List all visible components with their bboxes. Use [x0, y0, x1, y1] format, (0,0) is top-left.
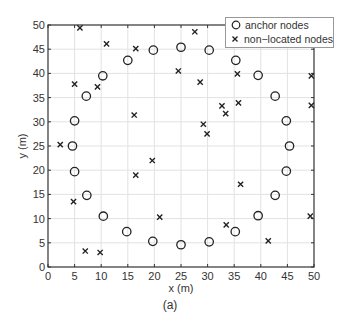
anchor-node-marker [231, 227, 239, 235]
legend-item-non-located-nodes: non−located nodes [226, 32, 333, 46]
non-located-node-marker [95, 84, 100, 89]
non-located-node-marker [192, 29, 197, 34]
y-tick-label: 15 [33, 188, 45, 200]
non-located-node-marker [77, 25, 82, 30]
non-located-node-marker [104, 41, 109, 46]
x-tick-label: 10 [95, 270, 107, 282]
x-tick-label: 0 [45, 270, 51, 282]
scatter-plot: 0510152025303540455005101520253035404550… [0, 0, 340, 333]
non-located-node-marker [204, 131, 209, 136]
non-located-node-marker [198, 80, 203, 85]
anchor-node-marker [271, 191, 279, 199]
non-located-node-marker [309, 73, 314, 78]
non-located-node-marker [133, 172, 138, 177]
y-tick-label: 20 [33, 164, 45, 176]
y-tick-label: 25 [33, 140, 45, 152]
legend: anchor nodes non−located nodes [225, 17, 334, 48]
x-tick-label: 35 [228, 270, 240, 282]
legend-item-anchor-nodes: anchor nodes [226, 18, 333, 32]
anchor-node-marker [99, 212, 107, 220]
y-tick-label: 45 [33, 43, 45, 55]
non-located-node-marker [201, 122, 206, 127]
x-tick-label: 45 [281, 270, 293, 282]
x-tick-label: 15 [122, 270, 134, 282]
legend-label: non−located nodes [244, 33, 333, 45]
y-tick-label: 5 [39, 237, 45, 249]
data-points [58, 25, 314, 255]
anchor-node-marker [149, 237, 157, 245]
anchor-node-marker [271, 92, 279, 100]
anchor-node-marker [149, 46, 157, 54]
y-tick-label: 40 [33, 67, 45, 79]
non-located-node-marker [176, 68, 181, 73]
non-located-node-marker [236, 100, 241, 105]
non-located-node-marker [223, 111, 228, 116]
non-located-node-marker [309, 103, 314, 108]
y-tick-label: 0 [39, 261, 45, 273]
x-tick-label: 5 [72, 270, 78, 282]
anchor-node-marker [82, 92, 90, 100]
anchor-node-marker [282, 117, 290, 125]
non-located-node-marker [71, 199, 76, 204]
x-tick-label: 30 [201, 270, 213, 282]
non-located-node-marker [224, 222, 229, 227]
anchor-node-marker [205, 238, 213, 246]
y-tick-label: 30 [33, 116, 45, 128]
non-located-node-marker [132, 112, 137, 117]
anchor-node-marker [83, 191, 91, 199]
grid-lines [48, 25, 314, 267]
x-tick-label: 50 [308, 270, 320, 282]
figure-caption: (a) [0, 298, 340, 312]
anchor-node-marker [232, 56, 240, 64]
y-axis-label: y (m) [16, 133, 28, 158]
anchor-node-marker [99, 72, 107, 80]
non-located-node-marker [238, 182, 243, 187]
x-marker-icon [230, 34, 241, 44]
circle-marker-icon [230, 20, 242, 30]
non-located-node-marker [308, 214, 313, 219]
y-tick-label: 50 [33, 19, 45, 31]
x-tick-label: 25 [175, 270, 187, 282]
x-tick-label: 40 [255, 270, 267, 282]
non-located-node-marker [98, 250, 103, 255]
y-tick-label: 35 [33, 92, 45, 104]
legend-label: anchor nodes [245, 19, 309, 31]
anchor-node-marker [123, 227, 131, 235]
anchor-node-marker [282, 167, 290, 175]
anchor-node-marker [205, 46, 213, 54]
non-located-node-marker [83, 248, 88, 253]
non-located-node-marker [219, 103, 224, 108]
x-axis-label: x (m) [168, 282, 193, 294]
y-tick-label: 10 [33, 213, 45, 225]
x-tick-label: 20 [148, 270, 160, 282]
